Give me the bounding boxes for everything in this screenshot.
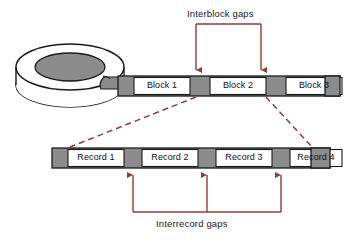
diagram-artwork xyxy=(0,0,348,242)
record-cell-1-label: Record 1 xyxy=(68,152,124,162)
expansion-lines-group xyxy=(70,97,312,147)
tape-reel-graphic xyxy=(16,44,131,107)
interblock-bracket-group xyxy=(196,24,261,70)
figure-canvas: Interblock gaps Interrecord gaps Block 1… xyxy=(0,0,348,242)
record-cell-2-label: Record 2 xyxy=(142,152,198,162)
record-cell-3-label: Record 3 xyxy=(216,152,272,162)
interrecord-gaps-label: Interrecord gaps xyxy=(156,218,228,229)
block-cell-2-label: Block 2 xyxy=(210,80,266,90)
block-cell-3-label: Block 3 xyxy=(286,80,342,90)
interblock-gaps-label: Interblock gaps xyxy=(187,8,254,19)
block-cell-1-label: Block 1 xyxy=(134,80,190,90)
record-cell-4-label: Record 4 xyxy=(288,152,344,162)
reel-hub xyxy=(35,53,105,81)
interrecord-bracket-group xyxy=(133,175,281,212)
right-expansion-line xyxy=(266,97,312,147)
